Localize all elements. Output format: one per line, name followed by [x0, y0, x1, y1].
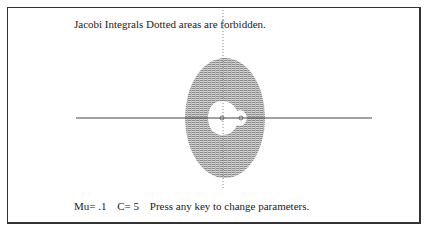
plot-title: Jacobi Integrals Dotted areas are forbid…: [74, 18, 266, 30]
status-line: Mu= .1 C= 5 Press any key to change para…: [74, 200, 317, 212]
jacobi-plot: [0, 0, 429, 233]
c-value: C= 5: [117, 200, 139, 212]
mu-value: Mu= .1: [74, 200, 106, 212]
key-prompt: Press any key to change parameters.: [150, 200, 309, 212]
